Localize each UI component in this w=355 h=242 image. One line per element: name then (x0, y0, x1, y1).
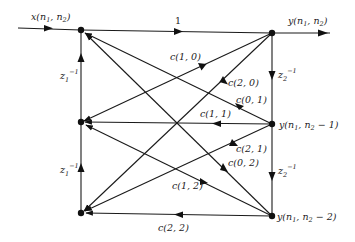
delay-label-z2: z2−1 (277, 163, 297, 179)
delay-label-z2: z2−1 (277, 67, 297, 83)
coef-label: c(1, 0) (170, 51, 201, 62)
forward-gain-label: 1 (175, 15, 181, 26)
coefficient-branches: c(1, 0) c(2, 0) c(0, 1) c(1, 1) c(2, 1) … (84, 33, 272, 233)
node-label-y-n2-minus-2: y(n1, n2 − 2) (276, 211, 337, 224)
arrow-icon (269, 71, 276, 80)
output-branch: y(n1, n2) (272, 15, 330, 37)
arrow-icon (44, 25, 53, 32)
arrow-icon (174, 28, 183, 35)
input-branch: x(n1, n2) (18, 11, 81, 32)
coef-label: c(0, 2) (228, 157, 259, 168)
arrow-icon (212, 121, 221, 128)
arrow-icon (174, 212, 183, 219)
branch-c11 (85, 122, 272, 124)
node-left-0 (78, 27, 84, 33)
node-right-1 (269, 121, 275, 127)
coef-label: c(2, 2) (158, 222, 189, 233)
branch-c12 (86, 125, 272, 216)
delay-label-z1: z1−1 (59, 68, 79, 84)
arrow-icon (220, 163, 228, 172)
arrow-icon (78, 53, 85, 62)
coef-label: c(1, 2) (172, 180, 203, 191)
arrow-icon (318, 30, 328, 37)
input-label: x(n1, n2) (31, 11, 71, 24)
coef-label: c(1, 1) (200, 108, 231, 119)
arrow-icon (269, 172, 276, 181)
forward-branch: 1 (81, 15, 272, 35)
coef-label: c(0, 1) (236, 94, 267, 105)
node-left-1 (78, 119, 84, 125)
delay-label-z1: z1−1 (59, 162, 79, 178)
node-left-2 (78, 210, 84, 216)
node-label-y-n2-minus-1: y(n1, n2 − 1) (278, 119, 339, 132)
node-right-0 (269, 30, 275, 36)
output-label: y(n1, n2) (287, 15, 328, 28)
coef-label: c(2, 0) (228, 77, 259, 88)
coef-label: c(2, 1) (236, 143, 267, 154)
signal-flow-graph: x(n1, n2) 1 y(n1, n2) z1−1 z1−1 z2−1 z2−… (0, 0, 355, 242)
node-right-2 (269, 213, 275, 219)
arrow-icon (220, 76, 229, 85)
